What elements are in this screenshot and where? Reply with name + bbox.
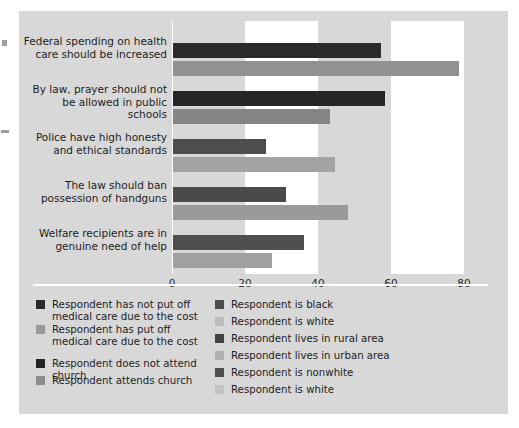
legend-item: Respondent is nonwhite xyxy=(215,367,353,379)
x-tick-label: 20 xyxy=(238,277,251,289)
legend-swatch-icon xyxy=(215,385,224,394)
legend-item: Respondent has not put off medical care … xyxy=(36,299,198,323)
bar xyxy=(173,253,272,268)
bar xyxy=(173,205,348,220)
x-tick-label: 60 xyxy=(384,277,397,289)
plot-band xyxy=(318,21,391,274)
legend-item: Respondent attends church xyxy=(36,375,192,387)
legend-label: Respondent has put off medical care due … xyxy=(52,324,198,348)
x-tick-label: 0 xyxy=(169,277,176,289)
legend-label: Respondent is white xyxy=(231,384,334,396)
legend-label: Respondent has not put off medical care … xyxy=(52,299,198,323)
legend-swatch-icon xyxy=(36,325,45,334)
legend-swatch-icon xyxy=(215,300,224,309)
category-label: The law should ban possession of handgun… xyxy=(21,179,167,204)
x-tick-label: 40 xyxy=(311,277,324,289)
legend-separator-rule xyxy=(33,284,488,286)
legend-swatch-icon xyxy=(36,376,45,385)
category-label: Police have high honesty and ethical sta… xyxy=(21,131,167,156)
legend-label: Respondent lives in urban area xyxy=(231,350,390,362)
chart-page: Federal spending on health care should b… xyxy=(0,0,519,428)
legend-label: Respondent is nonwhite xyxy=(231,367,353,379)
chart-panel: Federal spending on health care should b… xyxy=(19,11,508,414)
legend-item: Respondent lives in rural area xyxy=(215,333,384,345)
legend-item: Respondent is white xyxy=(215,316,334,328)
legend-item: Respondent lives in urban area xyxy=(215,350,390,362)
bar xyxy=(173,109,330,124)
bar xyxy=(173,43,381,58)
legend-label: Respondent lives in rural area xyxy=(231,333,384,345)
bar xyxy=(173,139,266,154)
bar xyxy=(173,235,304,250)
page-edge-mark-top xyxy=(2,40,7,46)
legend-swatch-icon xyxy=(215,351,224,360)
category-label: Federal spending on health care should b… xyxy=(21,35,167,60)
legend-swatch-icon xyxy=(36,359,45,368)
legend-item: Respondent has put off medical care due … xyxy=(36,324,198,348)
legend-item: Respondent is white xyxy=(215,384,334,396)
legend-swatch-icon xyxy=(36,300,45,309)
category-label: Welfare recipients are in genuine need o… xyxy=(21,227,167,252)
category-label: By law, prayer should not be allowed in … xyxy=(21,83,167,121)
bar xyxy=(173,157,335,172)
legend-item: Respondent is black xyxy=(215,299,333,311)
legend-label: Respondent attends church xyxy=(52,375,192,387)
legend-swatch-icon xyxy=(215,368,224,377)
bar xyxy=(173,91,385,106)
page-edge-mark-middle xyxy=(1,130,9,133)
y-axis-line xyxy=(172,21,173,274)
legend-swatch-icon xyxy=(215,334,224,343)
x-tick-label: 80 xyxy=(457,277,470,289)
plot-area xyxy=(172,21,484,274)
category-label-column: Federal spending on health care should b… xyxy=(19,11,167,291)
bar xyxy=(173,187,286,202)
legend-label: Respondent is white xyxy=(231,316,334,328)
plot-band xyxy=(391,21,464,274)
legend-label: Respondent is black xyxy=(231,299,333,311)
legend-swatch-icon xyxy=(215,317,224,326)
bar xyxy=(173,61,459,76)
